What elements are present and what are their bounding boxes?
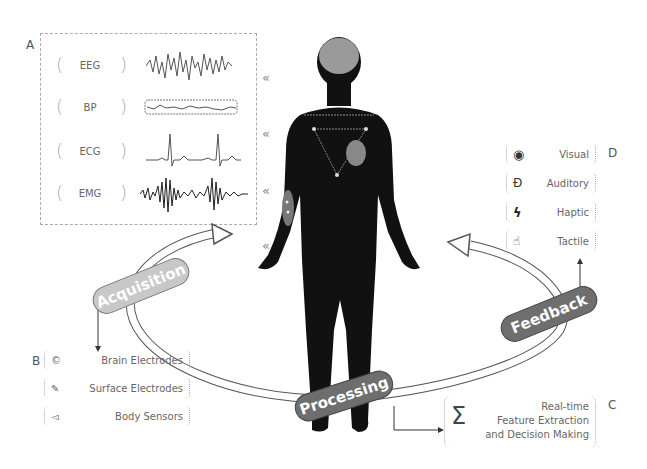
description-line: and Decision Making (485, 428, 589, 442)
eye-icon: ◉ (513, 147, 524, 162)
feedback-list: ◉ Visual Ɖ Auditory ϟ Haptic ☝ Tactile (506, 144, 596, 251)
list-item-label: Surface Electrodes (89, 383, 183, 394)
processing-description: Real-time Feature Extraction and Decisio… (485, 400, 589, 442)
list-item-label: Visual (559, 149, 589, 160)
panel-letter-b: B (32, 354, 40, 368)
list-item: ◉ Visual (506, 144, 596, 164)
list-item: ϟ Haptic (506, 202, 596, 222)
list-item: ✎ Surface Electrodes (44, 378, 190, 398)
lightning-icon: ϟ (513, 205, 522, 220)
sigma-icon: Σ (451, 402, 466, 430)
list-item-label: Body Sensors (115, 411, 183, 422)
list-item: Ɖ Auditory (506, 173, 596, 193)
list-item: ◅ Body Sensors (44, 406, 190, 426)
body-sensor-icon: ◅ (51, 411, 59, 422)
processing-box: Σ Real-time Feature Extraction and Decis… (444, 396, 596, 448)
ear-icon: Ɖ (513, 176, 522, 190)
description-line: Feature Extraction (485, 414, 589, 428)
surface-electrode-icon: ✎ (51, 383, 59, 394)
panel-letter-d: D (608, 146, 617, 160)
description-line: Real-time (485, 400, 589, 414)
list-item: © Brain Electrodes (44, 350, 190, 370)
list-item: ☝ Tactile (506, 231, 596, 251)
hand-icon: ☝ (513, 234, 520, 248)
acquisition-list: © Brain Electrodes ✎ Surface Electrodes … (44, 350, 190, 426)
list-item-label: Haptic (557, 207, 589, 218)
list-item-label: Brain Electrodes (101, 355, 183, 366)
list-item-label: Tactile (557, 236, 589, 247)
list-item-label: Auditory (547, 178, 589, 189)
brain-electrode-icon: © (51, 355, 61, 366)
panel-letter-c: C (608, 398, 616, 412)
